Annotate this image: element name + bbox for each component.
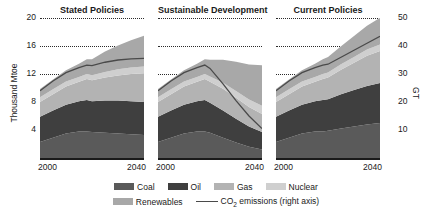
chart-legend: CoalOilGasNuclear RenewablesCO2 emission… — [0, 179, 432, 209]
legend-item-coal[interactable]: Coal — [114, 182, 154, 192]
panel-plot — [276, 18, 380, 158]
legend-item-gas[interactable]: Gas — [214, 182, 253, 192]
gridline-12 — [158, 74, 177, 75]
legend-item-renewables[interactable]: Renewables — [113, 197, 183, 207]
x-tick-start: 2000 — [274, 162, 293, 172]
y-tick-right-50: 50 — [398, 12, 407, 22]
gridline-12 — [276, 74, 295, 75]
gridline-20 — [158, 18, 262, 19]
chart-root: Thousand Mtoe GT 48121620 1020304050 Sta… — [0, 0, 432, 220]
legend-color-swatch — [113, 198, 133, 205]
y-tick-left-4: 4 — [31, 124, 36, 134]
y-tick-left-16: 16 — [27, 40, 36, 50]
legend-item-co2-emissions-right-axis[interactable]: CO2 emissions (right axis) — [196, 196, 320, 208]
x-tick-end: 2040 — [127, 162, 146, 172]
chart-panel-3: Current Policies20002040 — [276, 18, 380, 158]
plot-area — [40, 18, 144, 158]
x-axis-line — [158, 158, 262, 160]
y-tick-right-30: 30 — [398, 68, 407, 78]
y-tick-left-8: 8 — [31, 96, 36, 106]
legend-label: Oil — [191, 182, 201, 192]
legend-item-oil[interactable]: Oil — [168, 182, 201, 192]
legend-label: CO2 emissions (right axis) — [221, 196, 320, 208]
panel-plot — [158, 18, 262, 158]
x-axis-line — [276, 158, 380, 160]
legend-label: Coal — [137, 182, 154, 192]
chart-panel-2: Sustainable Development20002040 — [158, 18, 262, 158]
gridline-16 — [40, 46, 115, 47]
plot-area — [276, 18, 380, 158]
panel-title: Sustainable Development — [158, 5, 262, 15]
y-axis-ticks-right: 1020304050 — [398, 0, 424, 175]
y-tick-right-20: 20 — [398, 96, 407, 106]
gridline-16 — [158, 46, 262, 47]
legend-color-swatch — [168, 183, 188, 190]
panel-plot — [40, 18, 144, 158]
y-axis-ticks-left: 48121620 — [12, 0, 36, 175]
legend-color-swatch — [114, 183, 134, 190]
x-tick-end: 2040 — [363, 162, 382, 172]
y-tick-left-12: 12 — [27, 68, 36, 78]
panel-title: Stated Policies — [40, 5, 144, 15]
panel-title: Current Policies — [276, 5, 380, 15]
y-tick-right-10: 10 — [398, 124, 407, 134]
legend-row-secondary: RenewablesCO2 emissions (right axis) — [0, 194, 432, 209]
gridline-12 — [40, 74, 59, 75]
legend-line-swatch — [196, 201, 218, 202]
y-tick-left-20: 20 — [27, 12, 36, 22]
legend-color-swatch — [214, 183, 234, 190]
gridline-20 — [276, 18, 378, 19]
legend-color-swatch — [266, 183, 286, 190]
legend-item-nuclear[interactable]: Nuclear — [266, 182, 318, 192]
chart-panel-1: Stated Policies20002040 — [40, 18, 144, 158]
x-tick-start: 2000 — [38, 162, 57, 172]
gridline-16 — [276, 46, 340, 47]
legend-label: Gas — [237, 182, 253, 192]
x-axis-line — [40, 158, 144, 160]
legend-row-primary: CoalOilGasNuclear — [0, 179, 432, 194]
gridline-20 — [40, 18, 144, 19]
x-tick-end: 2040 — [245, 162, 264, 172]
y-tick-right-40: 40 — [398, 40, 407, 50]
legend-label: Renewables — [136, 197, 183, 207]
x-tick-start: 2000 — [156, 162, 175, 172]
plot-area — [158, 18, 262, 158]
legend-label: Nuclear — [289, 182, 318, 192]
